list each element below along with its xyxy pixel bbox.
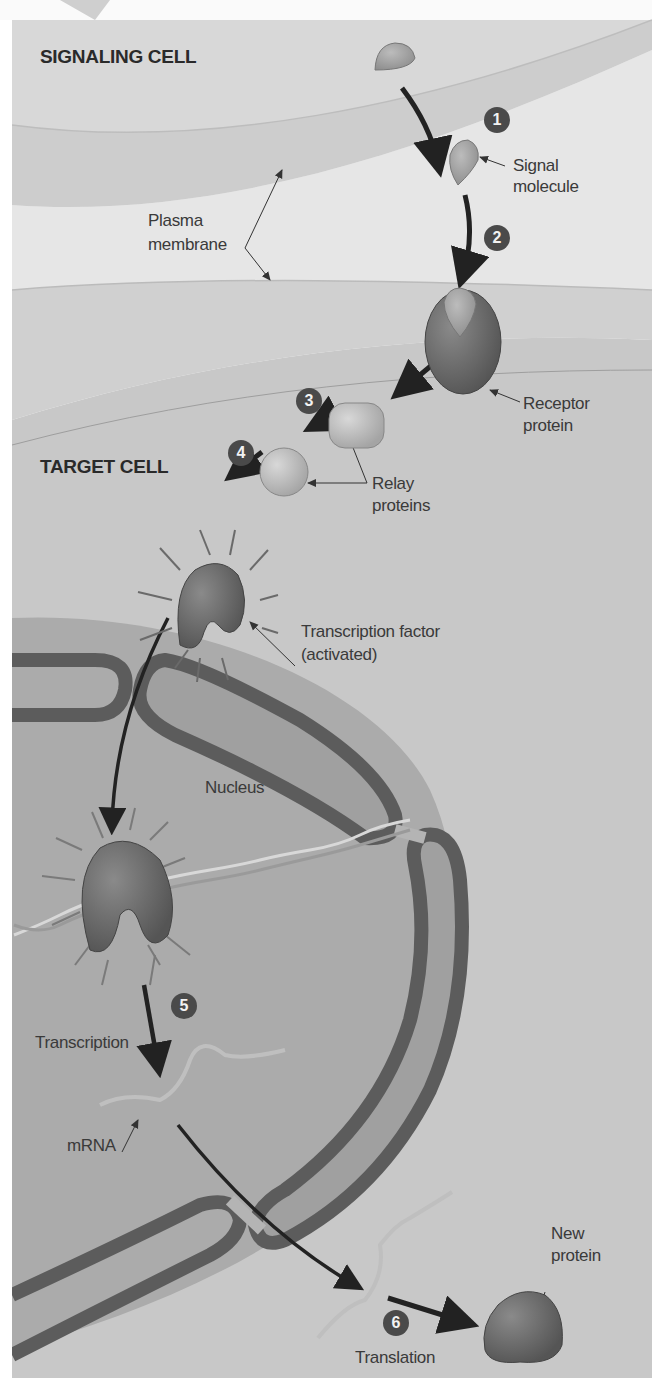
transcription-factor-label-line2: (activated) — [301, 645, 377, 665]
step-1-badge: 1 — [484, 107, 510, 133]
signal-molecule-label-line2: molecule — [513, 177, 579, 197]
step-4-badge: 4 — [228, 440, 254, 466]
diagram-canvas — [0, 0, 652, 1387]
step-3-badge: 3 — [296, 388, 322, 414]
relay-protein-1 — [329, 403, 384, 448]
signaling-cell-title: SIGNALING CELL — [40, 46, 196, 68]
relay-proteins-label-line1: Relay — [372, 474, 414, 494]
target-cell-title: TARGET CELL — [40, 456, 168, 478]
step-5-badge: 5 — [171, 993, 197, 1019]
mrna-label: mRNA — [67, 1136, 116, 1156]
plasma-membrane-label-line2: membrane — [148, 235, 227, 255]
transcription-label: Transcription — [35, 1033, 129, 1053]
signal-molecule-label-line1: Signal — [513, 156, 558, 176]
relay-protein-2 — [260, 448, 308, 496]
nucleus-label: Nucleus — [205, 778, 264, 798]
transcription-factor-label-line1: Transcription factor — [301, 622, 440, 642]
receptor-protein-label-line1: Receptor — [523, 394, 590, 414]
plasma-membrane-label-line1: Plasma — [148, 211, 203, 231]
cell-signaling-diagram: SIGNALING CELL TARGET CELL 1 2 3 4 5 6 S… — [0, 0, 652, 1387]
step-6-badge: 6 — [383, 1310, 409, 1336]
new-protein-label-line1: New — [551, 1224, 584, 1244]
translation-label: Translation — [355, 1348, 435, 1368]
new-protein-label-line2: protein — [551, 1246, 601, 1266]
relay-proteins-label-line2: proteins — [372, 496, 430, 516]
step-2-badge: 2 — [484, 225, 510, 251]
receptor-protein-label-line2: protein — [523, 416, 573, 436]
